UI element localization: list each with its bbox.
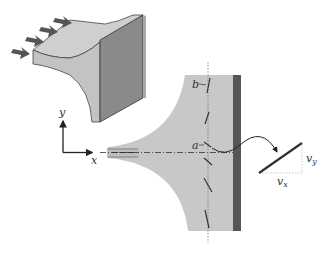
perspective-jet-illustration [11,15,146,122]
label-b: b [192,78,199,91]
x-axis-label: x [91,154,98,167]
vy-label: vy [306,152,317,166]
velocity-inset: vx vy [259,143,317,189]
diagram-canvas: b a y x vx vy [0,0,329,253]
y-axis-label: y [58,106,66,119]
wall [233,75,241,231]
arrow-icon [11,47,30,59]
wall-plate-edge [143,15,146,98]
label-a: a [192,139,199,152]
vx-label: vx [277,175,288,189]
fluid-element-inset [259,143,302,173]
